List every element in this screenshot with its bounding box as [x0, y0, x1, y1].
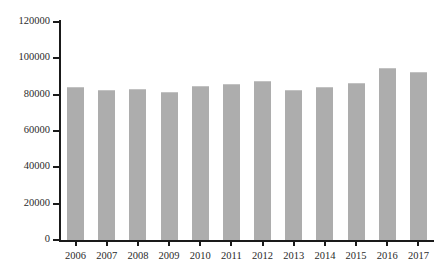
y-axis-tick [53, 57, 60, 59]
bar [98, 90, 115, 240]
x-axis-tick [293, 241, 295, 246]
x-axis-tick [324, 241, 326, 246]
y-axis-tick-label: 40000 [0, 161, 50, 171]
x-axis-tick-label: 2010 [185, 250, 216, 262]
y-axis-tick-label-text: 60000 [2, 125, 50, 135]
x-axis-tick-label: 2015 [341, 250, 372, 262]
y-axis-tick [53, 166, 60, 168]
plot-area [60, 22, 434, 240]
x-axis-tick [199, 241, 201, 246]
y-axis-tick-label-text: 100000 [2, 52, 50, 62]
x-axis-tick-label: 2016 [372, 250, 403, 262]
x-axis-tick [417, 241, 419, 246]
bar [129, 89, 146, 241]
x-axis-tick [230, 241, 232, 246]
x-axis-tick [106, 241, 108, 246]
bar-chart: 020000400006000080000100000120000 200620… [0, 0, 439, 276]
y-axis-tick [53, 203, 60, 205]
y-axis-tick-label: 60000 [0, 125, 50, 135]
x-axis-tick [386, 241, 388, 246]
x-axis-tick [355, 241, 357, 246]
x-axis-tick-label: 2013 [278, 250, 309, 262]
bar [285, 90, 302, 240]
y-axis-tick-label-text: 0 [2, 234, 50, 244]
y-axis-tick-label: 80000 [0, 89, 50, 99]
x-axis-tick-label: 2011 [216, 250, 247, 262]
y-axis-tick [53, 239, 60, 241]
y-axis-tick-label-text: 80000 [2, 89, 50, 99]
y-axis-tick-label: 100000 [0, 52, 50, 62]
y-axis-tick-label-text: 40000 [2, 161, 50, 171]
x-axis-tick [137, 241, 139, 246]
y-axis-tick-label: 0 [0, 234, 50, 244]
x-axis-tick [262, 241, 264, 246]
bar [410, 72, 427, 240]
y-axis-tick-label: 120000 [0, 16, 50, 26]
bar [254, 81, 271, 240]
x-axis-tick-label: 2007 [91, 250, 122, 262]
bar [161, 92, 178, 240]
x-axis-tick [75, 241, 77, 246]
x-axis-tick-label: 2008 [122, 250, 153, 262]
y-axis-tick-label-text: 120000 [2, 16, 50, 26]
x-axis-tick-label: 2014 [309, 250, 340, 262]
x-axis-tick [168, 241, 170, 246]
y-axis-tick [53, 94, 60, 96]
bar [223, 84, 240, 240]
bar [379, 68, 396, 240]
x-axis-tick-label: 2006 [60, 250, 91, 262]
x-axis-line [59, 240, 434, 242]
x-axis-tick-label: 2009 [154, 250, 185, 262]
bar [316, 87, 333, 240]
bar [348, 83, 365, 240]
bar [67, 87, 84, 240]
x-axis-tick-label: 2017 [403, 250, 434, 262]
x-axis-tick-label: 2012 [247, 250, 278, 262]
bar [192, 86, 209, 240]
y-axis-tick [53, 21, 60, 23]
y-axis-tick [53, 130, 60, 132]
y-axis-tick-label-text: 20000 [2, 198, 50, 208]
y-axis-tick-label: 20000 [0, 198, 50, 208]
